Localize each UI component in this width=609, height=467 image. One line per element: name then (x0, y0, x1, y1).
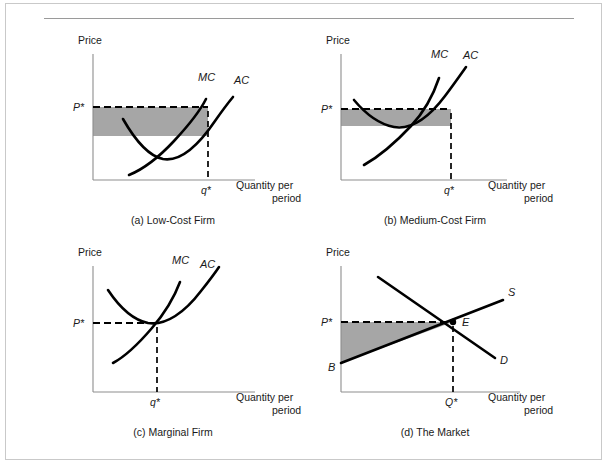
shade-profit-rectangle (341, 109, 451, 126)
panel-b-caption: (b) Medium-Cost Firm (302, 214, 568, 226)
price-tick-label: P* (321, 103, 333, 115)
x-axis-label-line2: period (272, 192, 301, 204)
curve-label-mc: MC (198, 71, 215, 83)
panel-d-caption: (d) The Market (302, 426, 568, 438)
x-axis-label-line1: Quantity per (488, 179, 546, 191)
price-tick-label: P* (73, 101, 85, 113)
curve-label-supply: S (508, 286, 516, 298)
y-axis-label: Price (78, 34, 102, 46)
x-axis-label-line2: period (524, 404, 553, 416)
figure-frame: Price MC AC P* q* Quantity per period (a… (5, 3, 602, 460)
panel-marginal-firm: Price MC AC P* q* Quantity per period (40, 240, 306, 450)
x-axis-label-line1: Quantity per (236, 179, 294, 191)
y-axis-label: Price (326, 34, 350, 46)
curve-label-ac: AC (199, 258, 215, 270)
price-tick-label: P* (73, 317, 85, 329)
y-axis-label: Price (78, 246, 102, 258)
x-axis-label-line1: Quantity per (488, 391, 546, 403)
top-rule-divider (44, 18, 574, 19)
x-axis-label-line1: Quantity per (236, 391, 294, 403)
panel-c-caption: (c) Marginal Firm (40, 426, 306, 438)
curve-label-mc: MC (172, 254, 189, 266)
curve-label-mc: MC (431, 48, 448, 60)
y-axis-label: Price (326, 246, 350, 258)
curve-demand (378, 277, 495, 358)
point-label-b: B (328, 361, 335, 373)
panel-the-market: Price S D E B P* Q* Quantity per period (302, 240, 568, 450)
curve-label-ac: AC (462, 49, 478, 61)
panel-medium-cost-firm: Price MC AC P* q* Quantity per period (302, 28, 568, 238)
curve-label-ac: AC (233, 74, 249, 86)
curve-label-demand: D (500, 354, 508, 366)
point-label-e: E (462, 316, 470, 328)
quantity-tick-label: q* (150, 396, 161, 408)
quantity-tick-label: q* (201, 184, 212, 196)
quantity-tick-label: q* (444, 184, 455, 196)
panel-low-cost-firm: Price MC AC P* q* Quantity per period (40, 28, 306, 238)
x-axis-label-line2: period (272, 404, 301, 416)
x-axis-label-line2: period (524, 192, 553, 204)
quantity-tick-label: Q* (445, 396, 458, 408)
panel-a-caption: (a) Low-Cost Firm (40, 214, 306, 226)
price-tick-label: P* (321, 316, 333, 328)
equilibrium-point-marker (450, 319, 456, 325)
